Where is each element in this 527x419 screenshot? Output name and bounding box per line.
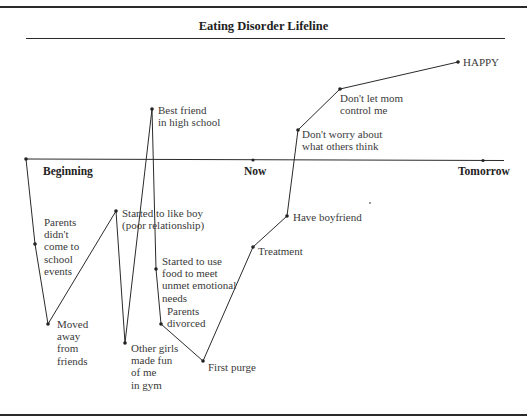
event-label-treatment: Treatment [258, 245, 303, 257]
event-label-girls-made-fun: Other girls made fun of me in gym [131, 342, 178, 391]
event-label-first-purge: First purge [208, 361, 256, 373]
axis-label-tomorrow: Tomorrow [458, 165, 510, 177]
event-label-mom-control: Don't let mom control me [340, 92, 403, 116]
axis-label-now: Now [244, 165, 266, 177]
event-label-parents-absent: Parents didn't come to school events [44, 216, 79, 277]
timeline-axis [26, 159, 504, 161]
event-label-liked-boy: Started to like boy (poor relationship) [122, 207, 204, 231]
event-label-best-friend: Best friend in high school [158, 104, 220, 128]
stray-dot [369, 202, 371, 204]
event-label-boyfriend: Have boyfriend [293, 211, 362, 223]
now-marker [251, 158, 254, 161]
event-label-happy: HAPPY [463, 56, 499, 68]
event-label-dont-worry: Don't worry about what others think [302, 128, 382, 152]
event-label-food-emotional: Started to use food to meet unmet emotio… [162, 255, 236, 304]
tomorrow-marker [481, 159, 484, 162]
event-label-parents-divorced: Parents divorced [167, 305, 205, 329]
axis-label-beginning: Beginning [43, 165, 93, 177]
event-label-moved-away: Moved away from friends [57, 318, 88, 367]
